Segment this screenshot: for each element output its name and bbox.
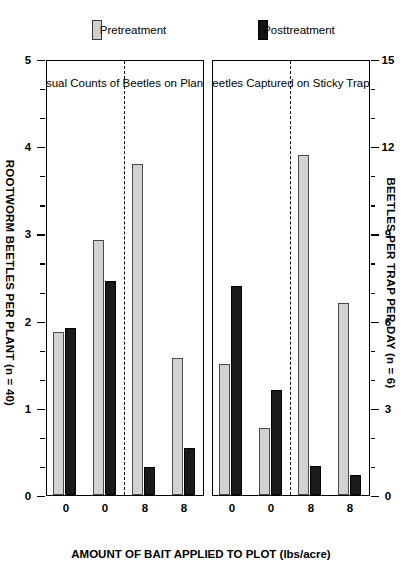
- trap-plot-area: Beetles Captured on Sticky Traps: [212, 60, 370, 496]
- value-tick-minor: [371, 351, 376, 352]
- plant-value-axis: 012345: [15, 60, 45, 496]
- value-tick-major: [371, 147, 379, 148]
- value-tick-minor: [41, 89, 46, 90]
- value-tick-minor: [41, 118, 46, 119]
- plant-group-separator: [124, 61, 125, 495]
- category-tick-label: 8: [181, 502, 187, 514]
- bar-posttreatment: [350, 475, 361, 495]
- value-tick-minor: [41, 176, 46, 177]
- value-tick-label: 9: [385, 228, 391, 240]
- value-tick-major: [371, 409, 379, 410]
- value-tick-minor: [371, 118, 376, 119]
- legend-pretreatment: Pretreatment: [46, 8, 204, 52]
- category-tick-label: 0: [102, 502, 108, 514]
- panel-visual-counts: Visual Counts of Beetles on Plants 01234…: [46, 60, 204, 496]
- value-tick-major: [37, 147, 45, 148]
- plant-category-axis: 8800: [46, 496, 204, 530]
- value-tick-minor: [41, 293, 46, 294]
- panel-sticky-traps: 03691215 Beetles Captured on Sticky Trap…: [212, 60, 370, 496]
- value-tick-label: 15: [382, 54, 395, 66]
- bar-pretreatment: [298, 155, 309, 495]
- category-tick-label: 8: [142, 502, 148, 514]
- value-tick-minor: [371, 467, 376, 468]
- value-tick-major: [371, 496, 379, 497]
- trap-value-axis: 03691215: [371, 60, 401, 496]
- value-tick-minor: [41, 263, 46, 264]
- bar-pretreatment: [338, 303, 349, 495]
- value-tick-major: [37, 322, 45, 323]
- category-axis-title: AMOUNT OF BAIT APPLIED TO PLOT (lbs/acre…: [0, 546, 403, 562]
- rotated-figure-stage: BEETLES PER TRAP PER DAY (n = 6) ROOTWOR…: [0, 0, 403, 566]
- value-tick-major: [37, 496, 45, 497]
- value-tick-label: 2: [25, 316, 31, 328]
- bar-posttreatment: [65, 328, 76, 495]
- value-tick-major: [37, 234, 45, 235]
- value-tick-label: 6: [385, 316, 391, 328]
- category-tick-label: 8: [308, 502, 314, 514]
- value-tick-label: 1: [25, 403, 31, 415]
- bar-pretreatment: [93, 240, 104, 495]
- value-tick-minor: [41, 351, 46, 352]
- value-tick-major: [37, 60, 45, 61]
- value-tick-label: 3: [25, 228, 31, 240]
- value-tick-minor: [371, 176, 376, 177]
- value-tick-minor: [41, 380, 46, 381]
- value-tick-minor: [41, 438, 46, 439]
- value-tick-major: [37, 409, 45, 410]
- category-tick-label: 8: [347, 502, 353, 514]
- trap-category-axis: 8800: [212, 496, 370, 530]
- value-tick-label: 12: [382, 141, 395, 153]
- category-tick-label: 0: [229, 502, 235, 514]
- bar-pretreatment: [259, 428, 270, 495]
- bar-posttreatment: [271, 390, 282, 495]
- category-axis-title-text: AMOUNT OF BAIT APPLIED TO PLOT (lbs/acre…: [72, 548, 331, 560]
- legend-posttreatment-label: Posttreatment: [264, 24, 336, 36]
- bar-posttreatment: [184, 448, 195, 495]
- bar-posttreatment: [310, 466, 321, 495]
- value-tick-minor: [371, 205, 376, 206]
- value-tick-label: 3: [385, 403, 391, 415]
- trap-group-separator: [290, 61, 291, 495]
- bar-pretreatment: [219, 364, 230, 495]
- value-tick-minor: [371, 380, 376, 381]
- value-tick-label: 4: [25, 141, 31, 153]
- bar-pretreatment: [53, 332, 64, 495]
- value-tick-minor: [41, 467, 46, 468]
- plant-plot-area: Visual Counts of Beetles on Plants: [46, 60, 204, 496]
- value-tick-minor: [371, 438, 376, 439]
- category-tick-label: 0: [63, 502, 69, 514]
- value-tick-label: 5: [25, 54, 31, 66]
- plant-panel-caption-text: Visual Counts of Beetles on Plants: [46, 77, 204, 89]
- value-tick-minor: [371, 263, 376, 264]
- bar-posttreatment: [144, 467, 155, 495]
- value-tick-major: [371, 234, 379, 235]
- category-tick-label: 0: [268, 502, 274, 514]
- value-tick-label: 0: [25, 490, 31, 502]
- bar-posttreatment: [231, 286, 242, 495]
- bar-posttreatment: [105, 281, 116, 496]
- bar-pretreatment: [132, 164, 143, 495]
- figure-page: BEETLES PER TRAP PER DAY (n = 6) ROOTWOR…: [0, 0, 403, 566]
- value-tick-major: [371, 322, 379, 323]
- trap-panel-caption-text: Beetles Captured on Sticky Traps: [212, 77, 370, 89]
- figure-body: BEETLES PER TRAP PER DAY (n = 6) ROOTWOR…: [0, 0, 403, 566]
- value-tick-minor: [371, 293, 376, 294]
- value-tick-minor: [41, 205, 46, 206]
- legend-pretreatment-label: Pretreatment: [100, 24, 166, 36]
- value-tick-minor: [371, 89, 376, 90]
- legend-posttreatment: Posttreatment: [212, 8, 370, 52]
- bar-pretreatment: [172, 358, 183, 495]
- value-tick-label: 0: [385, 490, 391, 502]
- value-tick-major: [371, 60, 379, 61]
